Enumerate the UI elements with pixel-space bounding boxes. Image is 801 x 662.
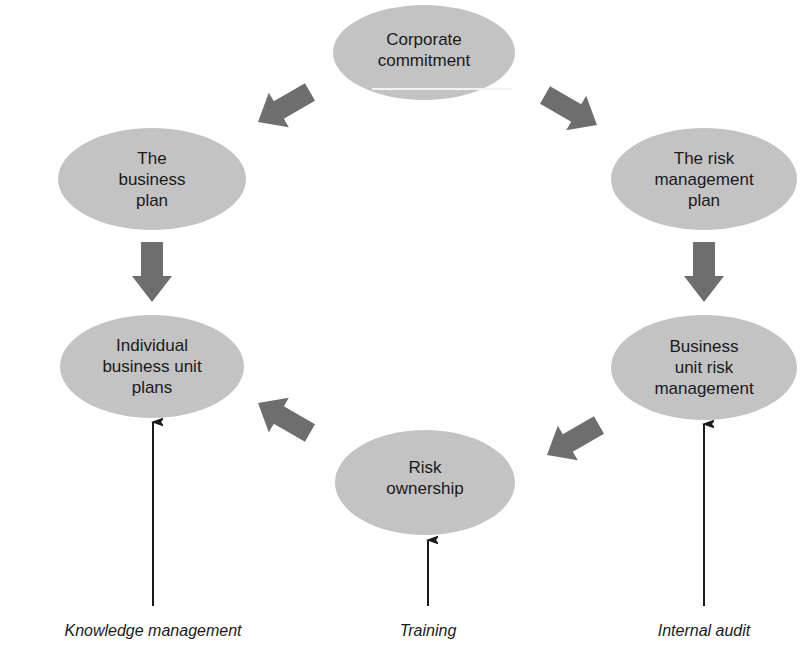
node-business-unit-risk-management: Business unit risk management — [611, 315, 797, 420]
node-label: Corporate commitment — [378, 29, 471, 71]
node-label: Individual business unit plans — [102, 335, 201, 398]
node-business-plan: The business plan — [58, 128, 246, 230]
node-label: Business unit risk management — [654, 336, 753, 399]
node-label: The risk management plan — [654, 148, 753, 211]
block-arrow-ownership-to-unit-plans — [248, 386, 320, 451]
node-label: Risk ownership — [386, 457, 464, 499]
block-arrow-business-plan-to-unit-plans — [132, 242, 172, 302]
node-risk-management-plan: The risk management plan — [611, 128, 797, 230]
risk-management-cycle-diagram: Corporate commitment The risk management… — [0, 0, 801, 662]
block-arrow-commitment-to-risk-plan — [535, 78, 607, 143]
node-label: The business plan — [118, 148, 185, 211]
node-individual-business-unit-plans: Individual business unit plans — [60, 315, 244, 418]
node-corporate-commitment: Corporate commitment — [333, 5, 515, 100]
block-arrow-risk-plan-to-unit-risk-mgmt — [684, 242, 724, 302]
block-arrow-commitment-to-business-plan — [248, 75, 320, 140]
block-arrow-unit-risk-mgmt-to-ownership — [537, 408, 609, 473]
input-label-training: Training — [400, 622, 457, 640]
node-risk-ownership: Risk ownership — [335, 430, 515, 535]
input-label-internal-audit: Internal audit — [658, 622, 751, 640]
input-label-knowledge-management: Knowledge management — [64, 622, 241, 640]
divider-line — [372, 88, 512, 90]
